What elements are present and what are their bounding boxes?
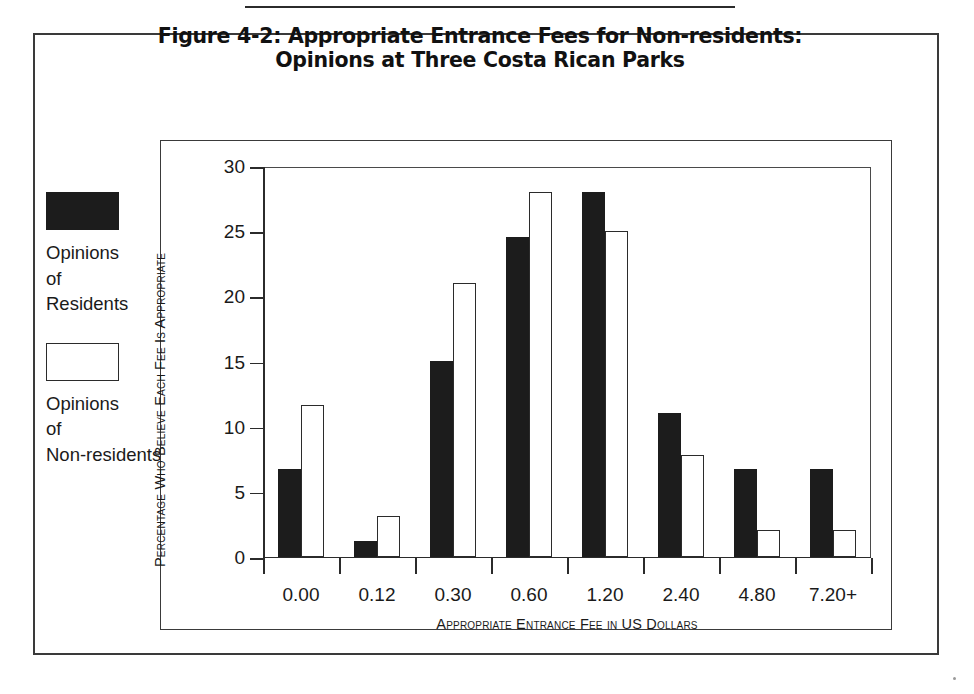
x-axis-tick-label: 0.12	[359, 584, 396, 606]
bar-residents	[582, 192, 605, 557]
x-axis-tick	[415, 558, 417, 574]
y-axis-tick-label: 0	[234, 547, 245, 569]
y-axis-tick	[250, 297, 263, 299]
figure-title-line-2: Opinions at Three Costa Rican Parks	[150, 48, 810, 72]
y-axis-title: Percentage Who Believe Each Fee Is Appro…	[151, 0, 169, 167]
axis-right-rule	[870, 167, 871, 558]
legend-entry-nonresidents: Opinions of Non-residents	[46, 343, 166, 468]
y-axis-tick	[250, 493, 263, 495]
bar-residents	[354, 541, 377, 557]
x-axis-tick-label: 2.40	[663, 584, 700, 606]
y-axis-tick	[250, 428, 263, 430]
x-axis-tick-label: 7.20+	[809, 584, 857, 606]
bar-nonresidents	[833, 530, 856, 556]
bar-residents	[506, 237, 529, 556]
y-axis-tick	[250, 167, 263, 169]
y-axis-tick-label: 20	[224, 286, 245, 308]
y-axis-tick-label: 5	[234, 482, 245, 504]
bar-nonresidents	[377, 516, 400, 556]
y-axis-tick	[250, 558, 263, 560]
x-axis-tick-label: 1.20	[587, 584, 624, 606]
x-axis-tick	[871, 558, 873, 574]
legend-entry-residents: Opinions of Residents	[46, 192, 166, 317]
y-axis-tick-label: 15	[224, 352, 245, 374]
figure-title-line-1: Figure 4-2: Appropriate Entrance Fees fo…	[158, 24, 803, 48]
x-axis-tick-label: 0.30	[435, 584, 472, 606]
x-axis-tick	[567, 558, 569, 574]
bar-residents	[430, 361, 453, 557]
axis-top-rule	[263, 167, 871, 168]
bar-nonresidents	[301, 405, 324, 556]
chart-legend: Opinions of Residents Opinions of Non-re…	[46, 192, 166, 493]
legend-label-residents: Opinions of Residents	[46, 240, 166, 317]
legend-swatch-nonresidents	[46, 343, 119, 381]
scan-speck	[953, 677, 956, 680]
x-axis-tick	[795, 558, 797, 574]
bar-nonresidents	[681, 455, 704, 557]
chart-axes: 051015202530 0.000.120.300.601.202.404.8…	[263, 167, 871, 558]
x-axis-tick-label: 0.00	[283, 584, 320, 606]
figure-title: Figure 4-2: Appropriate Entrance Fees fo…	[150, 24, 810, 72]
x-axis-tick	[643, 558, 645, 574]
x-axis-tick	[719, 558, 721, 574]
y-axis-tick-label: 10	[224, 417, 245, 439]
legend-swatch-residents	[46, 192, 119, 230]
bar-residents	[658, 413, 681, 556]
x-axis-tick	[491, 558, 493, 574]
y-axis-line	[263, 167, 265, 558]
page-top-rule	[245, 6, 735, 8]
bar-nonresidents	[605, 231, 628, 557]
x-axis-tick-label: 0.60	[511, 584, 548, 606]
bar-nonresidents	[529, 192, 552, 557]
y-axis-tick-label: 25	[224, 221, 245, 243]
x-axis-title: Appropriate Entrance Fee in US Dollars	[263, 616, 871, 632]
bar-nonresidents	[453, 283, 476, 557]
y-axis-tick	[250, 363, 263, 365]
x-axis-tick-label: 4.80	[739, 584, 776, 606]
x-axis-tick	[263, 558, 265, 574]
x-axis-tick	[339, 558, 341, 574]
y-axis-tick-label: 30	[224, 156, 245, 178]
bar-residents	[278, 469, 301, 556]
y-axis-tick	[250, 232, 263, 234]
bar-residents	[734, 469, 757, 556]
bar-nonresidents	[757, 530, 780, 556]
bar-residents	[810, 469, 833, 556]
plot-frame: Percentage Who Believe Each Fee Is Appro…	[160, 140, 892, 630]
legend-label-nonresidents: Opinions of Non-residents	[46, 391, 166, 468]
